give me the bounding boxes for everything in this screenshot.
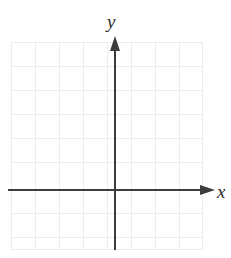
coordinate-plane-figure: y x [0, 0, 231, 258]
gridline-vertical [179, 42, 180, 250]
gridline-vertical [35, 42, 36, 250]
x-axis-line [8, 189, 206, 191]
x-axis-label: x [217, 182, 225, 201]
gridline-vertical [11, 42, 12, 250]
y-axis-arrow-icon [110, 36, 120, 51]
gridline-vertical [83, 42, 84, 250]
gridline-horizontal [11, 237, 203, 238]
y-axis-line [114, 46, 116, 250]
gridline-horizontal [11, 114, 203, 115]
gridline-vertical [202, 42, 203, 250]
y-axis-label: y [107, 12, 115, 31]
graph-grid [11, 42, 203, 250]
gridline-horizontal [11, 90, 203, 91]
gridline-vertical [59, 42, 60, 250]
gridline-horizontal [11, 162, 203, 163]
gridline-horizontal [11, 249, 203, 250]
gridline-horizontal [11, 213, 203, 214]
gridline-horizontal [11, 66, 203, 67]
gridline-vertical [131, 42, 132, 250]
x-axis-arrow-icon [200, 185, 215, 195]
gridline-vertical [155, 42, 156, 250]
gridline-horizontal [11, 42, 203, 43]
gridline-vertical [107, 42, 108, 250]
gridline-horizontal [11, 138, 203, 139]
